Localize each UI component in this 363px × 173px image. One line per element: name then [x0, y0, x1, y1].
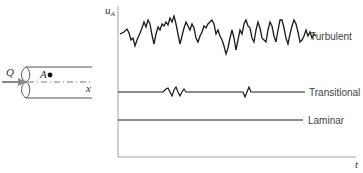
pipe-sketch: [2, 67, 92, 98]
flow-rate-label: Q: [6, 66, 14, 78]
flow-regimes-diagram: Q A x uA t Turbulent Transitional Lamina…: [0, 0, 363, 173]
laminar-label: Laminar: [308, 115, 345, 126]
plot-axes: [118, 6, 356, 157]
x-axis-label: t: [355, 158, 359, 170]
turbulent-trace: [120, 16, 316, 54]
x-axis-pipe-label: x: [85, 82, 91, 94]
y-axis-label: uA: [105, 4, 116, 18]
point-a-label: A: [39, 68, 47, 80]
transitional-trace: [118, 87, 305, 97]
transitional-label: Transitional: [309, 87, 360, 98]
point-a-marker: [48, 73, 53, 78]
turbulent-label: Turbulent: [310, 31, 352, 42]
